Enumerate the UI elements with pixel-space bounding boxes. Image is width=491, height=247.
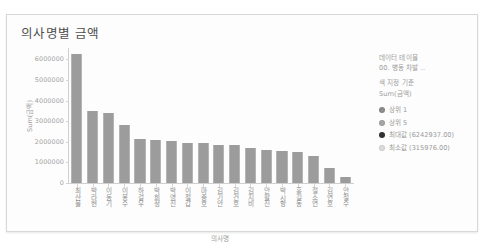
x-axis-tick-label: 절소연 <box>310 187 317 207</box>
y-axis-tick-label: 6000000 <box>35 55 64 63</box>
bar-slot <box>148 49 164 183</box>
x-axis-tick-label: 박희정 <box>152 187 159 207</box>
bar[interactable] <box>182 143 193 183</box>
bar-slot <box>243 49 259 183</box>
bar[interactable] <box>229 145 240 183</box>
x-axis-tick-label: 하걸우 <box>136 187 143 207</box>
legend-item[interactable]: 최대값 (6242937.00) <box>379 130 477 140</box>
bar-slot <box>227 49 243 183</box>
x-axis-tick-label: 홍길동 <box>294 187 301 207</box>
x-axis-tick-label: 박라현 <box>89 187 96 207</box>
legend-item[interactable]: 상위 5 <box>379 118 477 128</box>
bar[interactable] <box>324 168 335 183</box>
bar-slot <box>321 49 337 183</box>
legend-item-label: 상위 1 <box>389 105 407 115</box>
legend-item-label: 최소값 (315976.00) <box>389 143 450 153</box>
x-axis-tick-label: 이철갑 <box>184 187 191 207</box>
bar[interactable] <box>150 140 161 183</box>
bar[interactable] <box>71 54 82 183</box>
x-axis-tick-label: 마중호 <box>200 187 207 207</box>
bar[interactable] <box>87 111 98 183</box>
legend-item-label: 최대값 (6242937.00) <box>389 130 454 140</box>
legend-item[interactable]: 최소값 (315976.00) <box>379 143 477 153</box>
bar[interactable] <box>103 113 114 184</box>
bar-slot <box>306 49 322 183</box>
y-axis-title: Sum(금액) <box>24 100 34 132</box>
y-axis-tick-label: 0 <box>60 179 64 187</box>
y-axis-tick-label: 2000000 <box>35 138 64 146</box>
x-axis-line <box>68 183 354 184</box>
y-axis-tick-mark <box>66 183 69 184</box>
y-axis-tick-label: 4000000 <box>35 97 64 105</box>
legend-swatch-icon <box>379 145 385 151</box>
x-axis-tick-label: 김연호 <box>326 187 333 207</box>
x-axis-tick-label: 안철수 <box>342 187 349 207</box>
bar[interactable] <box>261 150 272 183</box>
bar-slot <box>337 49 353 183</box>
legend-swatch-icon <box>379 107 385 113</box>
bar[interactable] <box>245 148 256 183</box>
bar-slot <box>258 49 274 183</box>
y-axis-tick-label: 1000000 <box>35 158 64 166</box>
bar[interactable] <box>292 152 303 183</box>
bar-slot <box>211 49 227 183</box>
legend-item-list: 상위 1상위 5최대값 (6242937.00)최소값 (315976.00) <box>379 105 477 153</box>
bar[interactable] <box>308 156 319 183</box>
x-axis-tick-label: 안팔진 <box>263 187 270 207</box>
legend-item-label: 상위 5 <box>389 118 407 128</box>
x-axis-tick-label: 김기안 <box>215 187 222 207</box>
legend-item[interactable]: 상위 1 <box>379 105 477 115</box>
x-axis-tick-label: 박영진 <box>168 187 175 207</box>
page-title: 의사명별 금액 <box>21 23 100 42</box>
x-axis-tick-label: 이동기 <box>105 187 112 207</box>
bar[interactable] <box>166 141 177 183</box>
bar[interactable] <box>134 139 145 183</box>
legend-swatch-icon <box>379 120 385 126</box>
y-axis-tick-label: 5000000 <box>35 76 64 84</box>
x-axis-tick-label: 김지비 <box>247 187 254 207</box>
bar-slot <box>116 49 132 183</box>
bar[interactable] <box>198 143 209 183</box>
bar-slot <box>195 49 211 183</box>
x-axis-tick-label: 최산물 <box>73 187 80 207</box>
x-axis-tick-label: 이몽수 <box>121 187 128 207</box>
bar-slot <box>85 49 101 183</box>
legend: 데이터 테이블 00. 병동 차발 .. 색 지정 기준 Sum(금액) 상위 … <box>379 53 477 156</box>
chart-card: 의사명별 금액 Sum(금액) 의사명 01000000200000030000… <box>6 14 478 232</box>
x-axis-title: 의사명 <box>211 233 229 243</box>
bar-slot <box>101 49 117 183</box>
bar-slot <box>69 49 85 183</box>
bar[interactable] <box>340 177 351 184</box>
bar-slot <box>179 49 195 183</box>
plot-area: 0100000020000003000000400000050000006000… <box>69 49 353 183</box>
legend-header-line-2: 00. 병동 차발 .. <box>379 63 477 73</box>
bar[interactable] <box>119 125 130 183</box>
bar-slot <box>274 49 290 183</box>
legend-header-line-3: 색 지정 기준 <box>379 78 477 88</box>
x-axis-tick-label: 김건호 <box>231 187 238 207</box>
x-axis-tick-label: 박시항 <box>278 187 285 207</box>
bar-slot <box>290 49 306 183</box>
bar-slot <box>132 49 148 183</box>
legend-header-line-1: 데이터 테이블 <box>379 53 477 63</box>
legend-swatch-icon <box>379 132 385 138</box>
y-axis-tick-label: 3000000 <box>35 117 64 125</box>
legend-header-line-4: Sum(금액) <box>379 89 477 99</box>
bar[interactable] <box>276 151 287 183</box>
bar-slot <box>164 49 180 183</box>
bar[interactable] <box>213 145 224 183</box>
